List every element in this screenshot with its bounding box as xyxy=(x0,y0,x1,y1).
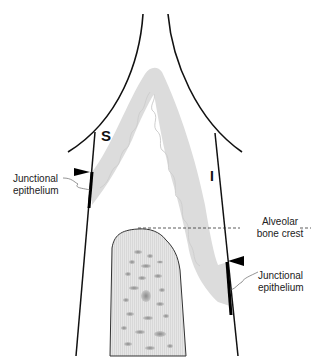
left-junctional-label-line2: epithelium xyxy=(13,185,59,197)
left-leader-line xyxy=(63,178,90,190)
i-marker-label: I xyxy=(210,168,214,184)
right-arrowhead-icon xyxy=(228,256,244,266)
left-junctional-label: Junctional epithelium xyxy=(13,173,59,197)
s-marker-label: S xyxy=(101,127,111,144)
right-junctional-epithelium xyxy=(227,262,231,315)
left-arrowhead-icon xyxy=(74,168,90,176)
alveolar-label-line2: bone crest xyxy=(244,228,316,240)
left-tooth-root-outline xyxy=(76,132,95,356)
right-junctional-label-line2: epithelium xyxy=(258,282,304,294)
right-junctional-label: Junctional epithelium xyxy=(258,270,304,294)
left-junctional-label-line1: Junctional xyxy=(13,173,59,185)
alveolar-label-line1: Alveolar xyxy=(244,216,316,228)
right-junctional-label-line1: Junctional xyxy=(258,270,304,282)
right-leader-line xyxy=(231,272,258,290)
right-tooth-root-outline xyxy=(215,133,238,356)
alveolar-crest-label: Alveolar bone crest xyxy=(244,216,316,240)
